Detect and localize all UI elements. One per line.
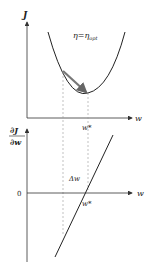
derivative-numerator: ∂J: [10, 125, 19, 135]
derivative-denominator: ∂w: [10, 137, 22, 147]
gradient-line: [55, 135, 113, 257]
cost-parabola: [48, 32, 125, 94]
top-y-label: J: [21, 10, 28, 20]
eta-annotation: η=ηopt: [73, 31, 99, 42]
bottom-x-label: w: [137, 189, 144, 198]
delta-w-label: Δw: [68, 175, 80, 183]
bottom-w-star-label: w*: [82, 200, 92, 208]
top-w-star-label: w*: [82, 124, 92, 132]
bottom-plot: ∂J ∂w 0 w Δw w*: [9, 125, 144, 262]
origin-label: 0: [17, 190, 21, 198]
top-x-label: w: [135, 114, 142, 123]
gradient-step-arrow: [63, 71, 86, 92]
top-plot: J w η=ηopt w*: [21, 10, 142, 132]
gradient-descent-diagram: J w η=ηopt w* ∂J ∂w 0 w Δw w*: [0, 0, 152, 270]
